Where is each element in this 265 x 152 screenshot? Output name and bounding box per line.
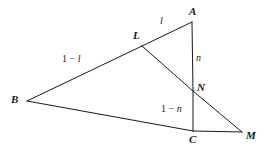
edge-label-lb-symbol: l bbox=[78, 53, 81, 64]
segment-L-B bbox=[27, 46, 142, 101]
vertex-label-C: C bbox=[189, 134, 196, 145]
edge-label-an: n bbox=[196, 53, 201, 63]
edge-label-nc-symbol: n bbox=[177, 103, 182, 114]
segment-L-N bbox=[142, 46, 193, 91]
vertex-label-M: M bbox=[246, 130, 256, 141]
segment-A-N bbox=[192, 22, 193, 91]
edge-label-lb: 1 − l bbox=[62, 54, 80, 64]
segment-A-L bbox=[142, 22, 192, 46]
vertex-label-N: N bbox=[197, 82, 205, 93]
vertex-label-B: B bbox=[11, 94, 18, 105]
edge-label-nc: 1 − n bbox=[161, 104, 182, 114]
vertex-label-A: A bbox=[189, 6, 196, 17]
segment-N-M bbox=[193, 91, 242, 132]
edge-label-lb-prefix: 1 − bbox=[62, 53, 78, 64]
geometry-figure: A B C L N M l 1 − l n 1 − n bbox=[0, 0, 265, 152]
vertex-label-L: L bbox=[133, 30, 140, 41]
segment-C-M bbox=[193, 131, 242, 132]
edge-label-al: l bbox=[160, 16, 163, 26]
figure-canvas bbox=[0, 0, 265, 152]
edge-label-nc-prefix: 1 − bbox=[161, 103, 177, 114]
